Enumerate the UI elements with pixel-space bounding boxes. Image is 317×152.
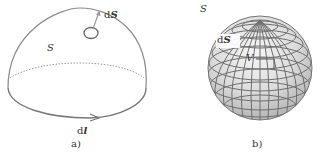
- label-dS: dS: [217, 34, 231, 45]
- label-dS-symbol: S: [223, 34, 230, 45]
- label-volume-V: V: [246, 52, 253, 63]
- label-dS-symbol: S: [110, 9, 117, 20]
- figure-b-sphere: S dS V b): [160, 0, 317, 152]
- caption-b: b): [252, 138, 262, 149]
- figure-a-hemisphere: dS S dl a): [0, 0, 160, 152]
- label-surface-S: S: [47, 42, 54, 53]
- label-dS: dS: [104, 9, 118, 20]
- caption-a: a): [71, 138, 81, 149]
- label-surface-S: S: [200, 3, 207, 14]
- sphere-drawing: [160, 0, 317, 152]
- label-dl-symbol: l: [83, 125, 87, 136]
- label-dl: dl: [77, 125, 87, 136]
